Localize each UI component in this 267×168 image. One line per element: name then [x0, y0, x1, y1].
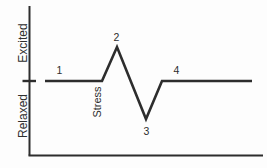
- point-label-1: 1: [57, 64, 63, 76]
- diagram-canvas: 1234ExcitedRelaxedStress: [0, 0, 267, 168]
- stress-response-diagram: 1234ExcitedRelaxedStress: [0, 0, 267, 168]
- point-label-2: 2: [114, 31, 120, 43]
- point-label-4: 4: [174, 64, 180, 76]
- relaxed-axis-label: Relaxed: [16, 94, 30, 138]
- stress-annotation-label: Stress: [91, 86, 103, 118]
- point-label-3: 3: [144, 125, 150, 137]
- signal-line: [45, 47, 252, 119]
- excited-axis-label: Excited: [16, 23, 30, 62]
